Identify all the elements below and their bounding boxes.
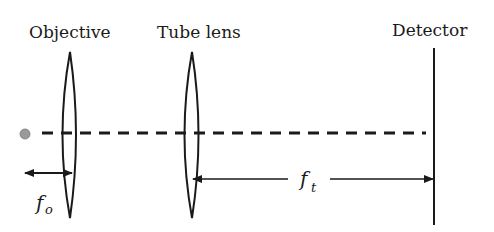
tube-lens (185, 52, 199, 218)
ft-subscript: t (311, 180, 317, 195)
tube-focal-label: f t (298, 167, 317, 195)
diagram-canvas: Objective Tube lens Detector f o f t (0, 0, 494, 232)
fo-subscript: o (45, 202, 53, 217)
source-point (20, 129, 30, 139)
objective-lens (63, 52, 77, 218)
ft-symbol: f (298, 167, 311, 191)
objective-label: Objective (29, 22, 111, 42)
detector-label: Detector (392, 20, 468, 40)
optics-diagram: Objective Tube lens Detector f o f t (0, 0, 494, 232)
objective-focal-label: f o (34, 191, 53, 217)
tube-lens-label: Tube lens (157, 22, 241, 42)
